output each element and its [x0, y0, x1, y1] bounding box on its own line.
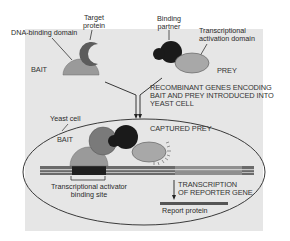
transcription-label-line2: OF REPORTER GENE — [178, 189, 253, 197]
binding-partner-bound-icon — [114, 125, 138, 149]
yeast-cell-label: Yeast cell — [50, 115, 81, 123]
bait-inside-label: BAIT — [57, 136, 73, 144]
background-panel — [25, 29, 263, 231]
activator-site-label-line2: binding site — [38, 191, 140, 199]
target-protein-label-line2: protein — [80, 22, 108, 30]
activation-domain-label-line2: activation domain — [199, 35, 255, 43]
captured-prey-label: CAPTURED PREY — [150, 125, 212, 133]
report-protein-label: Report protein — [162, 207, 208, 215]
prey-label: PREY — [217, 67, 237, 75]
activation-domain-bound-icon — [132, 142, 166, 162]
reporter-gene-segment-line — [175, 169, 242, 170]
yeast-two-hybrid-diagram: DNA-binding domain Target protein Bindin… — [0, 0, 290, 241]
binding-partner-lobe-icon — [153, 48, 165, 60]
activation-domain-icon — [175, 53, 209, 73]
binding-partner-label-line2: partner — [155, 23, 183, 31]
activator-binding-site-segment — [72, 166, 106, 175]
bait-label: BAIT — [31, 66, 47, 74]
reporter-protein-bar — [160, 202, 228, 205]
dna-binding-domain-label: DNA-binding domain — [11, 29, 77, 37]
recombinant-genes-line3: YEAST CELL — [150, 100, 194, 108]
reporter-gene-segment — [175, 166, 242, 175]
